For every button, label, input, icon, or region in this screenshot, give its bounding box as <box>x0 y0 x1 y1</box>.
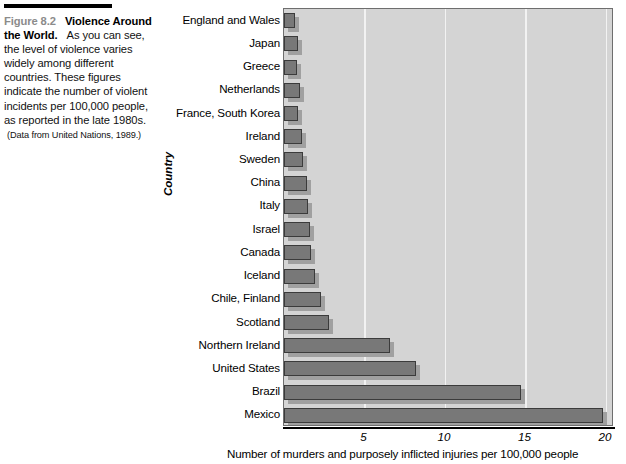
x-axis-line <box>283 427 615 429</box>
y-tick-label: Ireland <box>176 129 280 142</box>
y-tick-label: England and Wales <box>176 13 280 26</box>
bar[interactable] <box>284 36 298 51</box>
bar[interactable] <box>284 361 416 376</box>
y-tick-label: Iceland <box>176 268 280 281</box>
plot-area <box>283 8 613 426</box>
bar[interactable] <box>284 13 295 28</box>
y-tick-label: Brazil <box>176 384 280 397</box>
x-tick-label: 20 <box>598 430 611 443</box>
bar[interactable] <box>284 222 310 237</box>
y-axis-title: Country <box>162 152 174 196</box>
y-tick-label: Japan <box>176 36 280 49</box>
bar[interactable] <box>284 60 297 75</box>
bar[interactable] <box>284 176 307 191</box>
y-tick-label: Scotland <box>176 315 280 328</box>
x-axis-title: Number of murders and purposely inflicte… <box>227 447 578 460</box>
bar[interactable] <box>284 245 311 260</box>
y-tick-label: Sweden <box>176 152 280 165</box>
y-tick-label: Italy <box>176 198 280 211</box>
bar[interactable] <box>284 385 521 400</box>
x-tick-label: 10 <box>438 430 451 443</box>
bar[interactable] <box>284 408 603 423</box>
y-tick-label: France, South Korea <box>176 106 280 119</box>
bar[interactable] <box>284 152 303 167</box>
x-axis-tick-labels: 5101520 <box>283 430 623 446</box>
bar-chart: Country England and WalesJapanGreeceNeth… <box>0 0 626 464</box>
bar[interactable] <box>284 292 321 307</box>
bar[interactable] <box>284 269 315 284</box>
bar[interactable] <box>284 83 300 98</box>
bar[interactable] <box>284 199 308 214</box>
bar[interactable] <box>284 315 329 330</box>
bar[interactable] <box>284 106 298 121</box>
y-axis-tick-labels: England and WalesJapanGreeceNetherlandsF… <box>176 8 280 426</box>
y-tick-label: China <box>176 175 280 188</box>
y-tick-label: Chile, Finland <box>176 291 280 304</box>
bar[interactable] <box>284 338 390 353</box>
gridline-10 <box>445 9 447 425</box>
y-tick-label: United States <box>176 361 280 374</box>
x-tick-label: 15 <box>518 430 531 443</box>
y-tick-label: Canada <box>176 245 280 258</box>
bar[interactable] <box>284 129 302 144</box>
gridline-15 <box>525 9 527 425</box>
y-tick-label: Northern Ireland <box>176 338 280 351</box>
x-tick-label: 5 <box>360 430 366 443</box>
gridline-20 <box>606 9 608 425</box>
y-tick-label: Mexico <box>176 407 280 420</box>
y-tick-label: Netherlands <box>176 82 280 95</box>
y-tick-label: Israel <box>176 222 280 235</box>
y-tick-label: Greece <box>176 59 280 72</box>
